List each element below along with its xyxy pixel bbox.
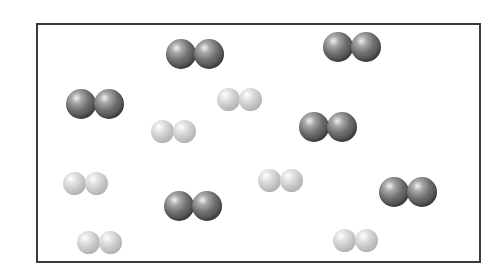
light-atom-sphere: [355, 229, 378, 252]
light-atom-sphere: [333, 229, 356, 252]
dark-diatomic-molecule: [379, 177, 437, 207]
dark-diatomic-molecule: [299, 112, 357, 142]
light-diatomic-molecule: [77, 231, 122, 254]
light-atom-sphere: [280, 169, 303, 192]
dark-atom-sphere: [94, 89, 124, 119]
light-diatomic-molecule: [151, 120, 196, 143]
dark-diatomic-molecule: [164, 191, 222, 221]
light-atom-sphere: [99, 231, 122, 254]
dark-atom-sphere: [407, 177, 437, 207]
dark-diatomic-molecule: [66, 89, 124, 119]
dark-atom-sphere: [66, 89, 96, 119]
light-atom-sphere: [258, 169, 281, 192]
dark-diatomic-molecule: [323, 32, 381, 62]
dark-atom-sphere: [194, 39, 224, 69]
container-box: [36, 23, 481, 263]
dark-atom-sphere: [327, 112, 357, 142]
light-diatomic-molecule: [217, 88, 262, 111]
light-atom-sphere: [63, 172, 86, 195]
light-diatomic-molecule: [333, 229, 378, 252]
light-atom-sphere: [151, 120, 174, 143]
dark-atom-sphere: [299, 112, 329, 142]
light-diatomic-molecule: [63, 172, 108, 195]
light-atom-sphere: [173, 120, 196, 143]
dark-atom-sphere: [166, 39, 196, 69]
light-atom-sphere: [85, 172, 108, 195]
light-atom-sphere: [217, 88, 240, 111]
light-diatomic-molecule: [258, 169, 303, 192]
dark-atom-sphere: [323, 32, 353, 62]
light-atom-sphere: [239, 88, 262, 111]
dark-atom-sphere: [192, 191, 222, 221]
dark-atom-sphere: [164, 191, 194, 221]
dark-atom-sphere: [351, 32, 381, 62]
light-atom-sphere: [77, 231, 100, 254]
dark-atom-sphere: [379, 177, 409, 207]
dark-diatomic-molecule: [166, 39, 224, 69]
